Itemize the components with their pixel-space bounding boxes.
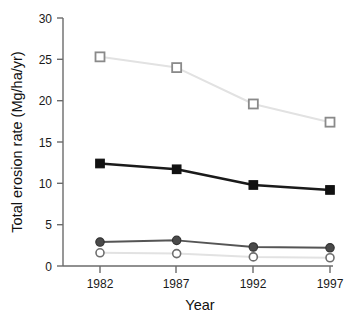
series-filled-square-series xyxy=(96,159,335,194)
series-line-filled-square-series xyxy=(100,163,330,189)
x-tick-label-1987: 1987 xyxy=(163,277,190,291)
data-point-open-circle-series-1982 xyxy=(96,249,104,257)
y-tick-label-5: 5 xyxy=(45,218,52,232)
data-point-filled-square-series-1982 xyxy=(96,159,105,168)
y-tick-label-30: 30 xyxy=(39,12,53,26)
series-line-open-square-series xyxy=(100,57,330,122)
data-point-open-square-series-1987 xyxy=(172,63,181,72)
y-axis-ticks xyxy=(57,18,63,266)
data-point-filled-circle-series-1982 xyxy=(96,238,104,246)
series-open-circle-series xyxy=(96,249,334,262)
y-tick-label-25: 25 xyxy=(39,53,53,67)
data-point-open-circle-series-1987 xyxy=(173,250,181,258)
series-open-square-series xyxy=(96,52,335,126)
x-tick-label-1992: 1992 xyxy=(240,277,267,291)
data-point-filled-circle-series-1997 xyxy=(326,244,334,252)
series-line-filled-circle-series xyxy=(100,240,330,247)
series-line-open-circle-series xyxy=(100,253,330,258)
y-tick-label-0: 0 xyxy=(45,260,52,274)
data-series-layer xyxy=(96,52,335,261)
data-point-open-square-series-1997 xyxy=(326,118,335,127)
x-axis-title: Year xyxy=(185,297,214,313)
y-tick-label-20: 20 xyxy=(39,94,53,108)
x-tick-label-1997: 1997 xyxy=(317,277,344,291)
data-point-open-circle-series-1992 xyxy=(249,253,257,261)
data-point-filled-square-series-1997 xyxy=(326,186,335,195)
x-axis-tick-labels: 1982 1987 1992 1997 xyxy=(87,277,344,291)
y-tick-label-15: 15 xyxy=(39,136,53,150)
chart-canvas: 30 25 20 15 10 5 0 1982 1987 1992 1997 T… xyxy=(0,0,355,319)
y-axis-title: Total erosion rate (Mg/ha/yr) xyxy=(9,51,25,232)
y-axis-tick-labels: 30 25 20 15 10 5 0 xyxy=(39,12,53,274)
data-point-open-circle-series-1997 xyxy=(326,254,334,262)
data-point-filled-square-series-1987 xyxy=(172,165,181,174)
data-point-filled-square-series-1992 xyxy=(249,181,257,190)
data-point-filled-circle-series-1987 xyxy=(172,236,180,244)
data-point-open-square-series-1982 xyxy=(96,52,105,61)
data-point-open-square-series-1992 xyxy=(249,99,258,108)
series-filled-circle-series xyxy=(96,236,334,252)
data-point-filled-circle-series-1992 xyxy=(249,243,257,251)
x-tick-label-1982: 1982 xyxy=(87,277,114,291)
y-tick-label-10: 10 xyxy=(39,177,53,191)
erosion-rate-line-chart: 30 25 20 15 10 5 0 1982 1987 1992 1997 T… xyxy=(0,0,355,319)
x-axis-ticks xyxy=(100,266,330,273)
